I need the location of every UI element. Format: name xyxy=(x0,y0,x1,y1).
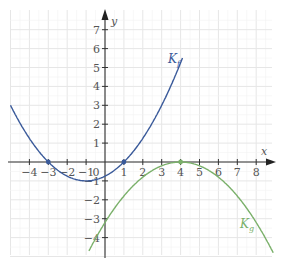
curves xyxy=(11,58,274,253)
y-axis-arrow-icon xyxy=(102,9,109,20)
y-tick-label: 5 xyxy=(93,62,100,75)
x-tick-label: 5 xyxy=(196,166,203,179)
y-axis-label: y xyxy=(110,15,118,28)
y-tick-label: 1 xyxy=(93,137,100,150)
label-k-f: Kf xyxy=(167,52,182,68)
y-tick-label: 7 xyxy=(93,24,100,37)
y-tick-label: 3 xyxy=(93,99,100,112)
origin-label: 0 xyxy=(93,166,100,179)
x-tick-label: 4 xyxy=(177,166,184,179)
x-tick-label: −4 xyxy=(21,166,37,179)
y-tick-label: 6 xyxy=(93,43,100,56)
y-tick-label: −2 xyxy=(84,194,100,207)
x-tick-label: 3 xyxy=(158,166,165,179)
curve-labels: KfKg xyxy=(167,52,254,233)
tick-labels: −4−3−2−112345678−4−3−2−112345670yx xyxy=(21,15,268,245)
label-k-g: Kg xyxy=(239,217,254,233)
y-tick-label: 4 xyxy=(93,80,100,93)
y-tick-label: 2 xyxy=(93,118,100,131)
point-marker xyxy=(46,160,51,165)
x-tick-label: 7 xyxy=(234,166,241,179)
point-marker xyxy=(122,160,127,165)
function-plot: −4−3−2−112345678−4−3−2−112345670yx KfKg xyxy=(0,0,282,261)
grid xyxy=(10,10,272,257)
x-axis-label: x xyxy=(261,145,268,158)
x-axis-arrow-icon xyxy=(266,159,276,166)
point-marker xyxy=(178,160,183,165)
x-tick-label: 1 xyxy=(120,166,127,179)
x-tick-label: 8 xyxy=(253,166,260,179)
y-tick-label: −3 xyxy=(84,213,100,226)
